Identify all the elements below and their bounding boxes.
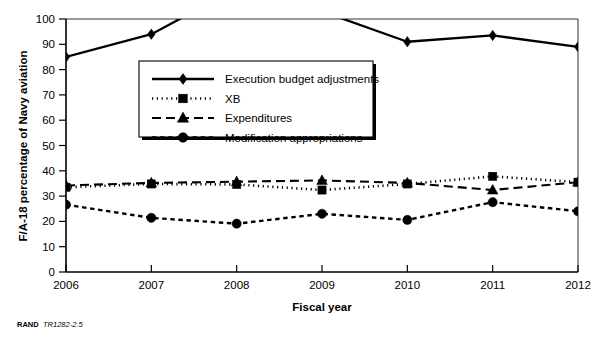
y-tick-label: 90 bbox=[42, 38, 55, 50]
diamond-marker bbox=[489, 30, 496, 40]
square-marker bbox=[179, 94, 188, 103]
plot-frame bbox=[66, 19, 578, 272]
circle-marker bbox=[61, 200, 70, 209]
circle-marker bbox=[232, 219, 241, 228]
circle-marker bbox=[488, 198, 497, 207]
circle-marker bbox=[178, 133, 188, 143]
x-axis-tick-labels: 2006200720082009201020112012 bbox=[53, 279, 591, 291]
x-tick-label: 2011 bbox=[480, 279, 505, 291]
y-tick-label: 80 bbox=[42, 64, 55, 76]
y-tick-label: 40 bbox=[42, 165, 55, 177]
series-diamond bbox=[62, 0, 581, 62]
y-axis-ticks bbox=[59, 19, 66, 272]
square-marker bbox=[489, 172, 497, 180]
x-tick-label: 2010 bbox=[395, 279, 421, 291]
circle-marker bbox=[403, 215, 412, 224]
x-tick-label: 2006 bbox=[53, 279, 79, 291]
diamond-marker bbox=[574, 42, 581, 52]
x-axis-title: Fiscal year bbox=[292, 301, 352, 313]
y-tick-label: 50 bbox=[42, 140, 55, 152]
legend-entry: Modification appropriations bbox=[152, 132, 363, 144]
figure-container: 0102030405060708090100 20062007200820092… bbox=[0, 0, 600, 338]
x-axis-ticks bbox=[66, 265, 578, 272]
source-id: TR1282-2.5 bbox=[43, 320, 83, 329]
legend-label: Execution budget adjustments bbox=[225, 73, 379, 85]
y-axis-title: F/A-18 percentage of Navy aviation bbox=[17, 50, 29, 241]
circle-marker bbox=[573, 207, 582, 216]
square-marker bbox=[318, 186, 326, 194]
circle-marker bbox=[317, 209, 326, 218]
diamond-marker bbox=[148, 29, 155, 39]
series-line bbox=[66, 0, 578, 57]
circle-marker bbox=[147, 213, 156, 222]
x-tick-label: 2012 bbox=[565, 279, 591, 291]
y-tick-label: 20 bbox=[42, 215, 55, 227]
y-tick-label: 0 bbox=[49, 266, 55, 278]
source-prefix: RAND bbox=[17, 320, 39, 329]
y-tick-label: 100 bbox=[36, 13, 55, 25]
y-tick-label: 10 bbox=[42, 241, 55, 253]
x-tick-label: 2007 bbox=[139, 279, 165, 291]
chart-legend: Execution budget adjustmentsXBExpenditur… bbox=[139, 61, 379, 144]
y-tick-label: 60 bbox=[42, 114, 55, 126]
x-tick-label: 2008 bbox=[224, 279, 250, 291]
legend-label: XB bbox=[225, 93, 241, 105]
legend-label: Expenditures bbox=[225, 112, 292, 124]
y-axis-tick-labels: 0102030405060708090100 bbox=[36, 13, 55, 278]
line-chart: 0102030405060708090100 20062007200820092… bbox=[0, 0, 600, 338]
diamond-marker bbox=[62, 52, 69, 62]
y-tick-label: 30 bbox=[42, 190, 55, 202]
source-caption: RAND TR1282-2.5 bbox=[17, 320, 83, 329]
series-circle bbox=[61, 198, 582, 229]
x-tick-label: 2009 bbox=[309, 279, 335, 291]
y-tick-label: 70 bbox=[42, 89, 55, 101]
diamond-marker bbox=[404, 37, 411, 47]
legend-label: Modification appropriations bbox=[225, 132, 363, 144]
